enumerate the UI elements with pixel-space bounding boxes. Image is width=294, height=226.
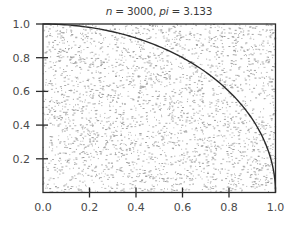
x-tick-label: 0.2 — [81, 201, 99, 214]
x-tick-label: 0.4 — [127, 201, 145, 214]
y-tick-label: 0.8 — [13, 52, 31, 65]
axes-frame — [43, 24, 276, 193]
scatter-points — [42, 24, 276, 193]
quarter-circle-curve — [43, 24, 276, 193]
y-tick-label: 1.0 — [13, 18, 31, 31]
x-tick-label: 0.6 — [174, 201, 192, 214]
y-tick-label: 0.6 — [13, 85, 31, 98]
monte-carlo-pi-chart: n = 3000, pi = 3.133 0.00.20.40.60.81.0 … — [0, 0, 294, 226]
x-axis: 0.00.20.40.60.81.0 — [34, 188, 284, 215]
x-tick-label: 0.8 — [220, 201, 238, 214]
x-tick-label: 0.0 — [34, 201, 52, 214]
y-tick-label: 0.2 — [13, 153, 31, 166]
y-tick-label: 0.4 — [13, 119, 31, 132]
plot-area: 0.00.20.40.60.81.0 0.20.40.60.81.0 — [0, 0, 294, 226]
x-tick-label: 1.0 — [267, 201, 285, 214]
